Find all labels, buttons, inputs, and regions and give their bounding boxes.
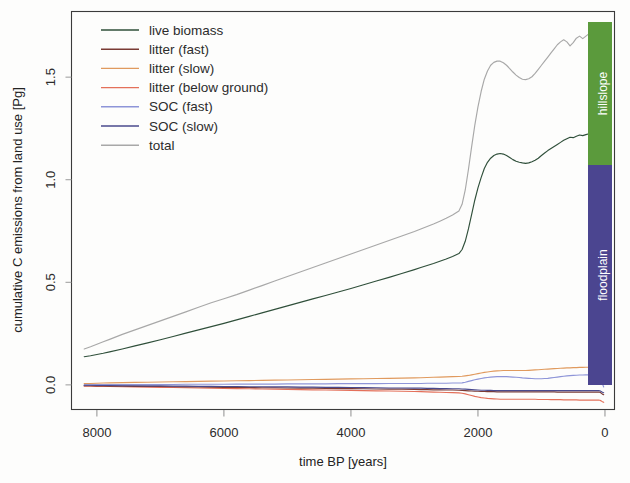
y-axis-ticks: 0.00.51.01.5 [43,68,71,394]
y-tick-label: 1.0 [43,171,58,189]
y-axis-title: cumulative C emissions from land use [Pg… [10,87,25,333]
legend-label: litter (fast) [149,42,209,57]
y-tick-label: 0.0 [43,376,58,394]
x-tick-label: 6000 [209,425,238,440]
side-bands-group: hillslopefloodplain [588,22,612,385]
legend-label: live biomass [149,23,224,38]
x-tick-label: 0 [601,425,608,440]
chart-canvas: 0.00.51.01.5 80006000400020000 hillslope… [0,0,630,483]
y-tick-label: 0.5 [43,273,58,291]
legend-label: SOC (fast) [149,99,213,114]
legend-label: total [149,138,175,153]
x-tick-label: 4000 [336,425,365,440]
chart-legend: live biomasslitter (fast)litter (slow)li… [101,23,268,153]
x-axis-title: time BP [years] [299,454,387,469]
side-band-label: hillslope [596,71,610,115]
chart-screenshot: 0.00.51.01.5 80006000400020000 hillslope… [0,0,630,483]
y-tick-label: 1.5 [43,68,58,86]
x-tick-label: 8000 [82,425,111,440]
side-band-label: floodplain [596,249,610,300]
legend-label: litter (slow) [149,61,214,76]
legend-label: litter (below ground) [149,80,268,95]
series-line [84,375,604,387]
x-axis-ticks: 80006000400020000 [72,410,615,440]
x-tick-label: 2000 [463,425,492,440]
series-line [84,367,604,383]
legend-label: SOC (slow) [149,119,218,134]
series-line [84,133,604,357]
